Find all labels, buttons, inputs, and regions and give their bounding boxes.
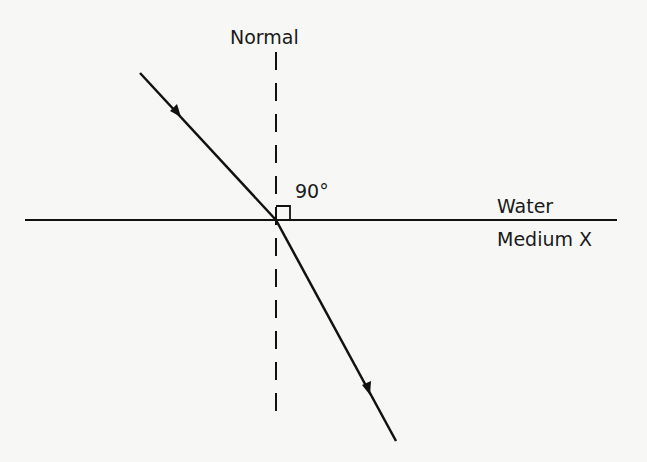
normal-label: Normal	[230, 26, 299, 48]
angle-label: 90°	[295, 180, 329, 202]
refracted-ray	[276, 220, 396, 441]
water-label: Water	[497, 195, 553, 217]
medium-x-label: Medium X	[497, 228, 592, 250]
incident-ray	[140, 73, 276, 220]
right-angle-marker	[276, 206, 290, 220]
